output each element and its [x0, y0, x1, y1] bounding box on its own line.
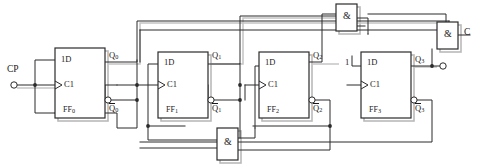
ff1-d-label: 1D	[164, 58, 174, 67]
ff2-clk-label: C1	[268, 80, 278, 89]
wire-and-bottom-in1	[148, 126, 217, 140]
ff3-clk-label: C1	[370, 80, 380, 89]
ff3-name-index: 3	[378, 107, 381, 114]
circuit-diagram: CP 1D C1 FF0 Q0 Q0 1D C1 FF1 Q1 Q1 1D C1…	[0, 0, 479, 165]
q1-index: 1	[218, 53, 221, 60]
qbar0-label: Q0	[109, 103, 118, 114]
ff2-name-text: FF	[267, 105, 276, 114]
qbar1-index: 1	[218, 106, 221, 113]
q3-output-terminal	[440, 63, 446, 69]
ff0-name-index: 0	[72, 107, 75, 114]
gate-bodies	[217, 4, 458, 160]
ff2-name: FF2	[267, 106, 279, 115]
q0-label: Q0	[109, 51, 118, 61]
ff3-name: FF3	[369, 106, 381, 115]
ff3-name-text: FF	[369, 105, 378, 114]
enable-one-label: 1	[345, 58, 349, 67]
ff0-clk-label: C1	[64, 80, 74, 89]
ff1-name: FF1	[166, 106, 178, 115]
qbar3-index: 3	[421, 106, 424, 113]
ff1-name-text: FF	[166, 105, 175, 114]
q3-index: 3	[421, 57, 424, 64]
ff0-name-text: FF	[63, 105, 72, 114]
q1-label: Q1	[212, 51, 221, 61]
ff1-name-index: 1	[175, 107, 178, 114]
ff1-clk-label: C1	[167, 80, 177, 89]
qbar0-index: 0	[115, 106, 118, 113]
cp-input-label: CP	[7, 65, 19, 75]
wire-ff0-bottom-feedback	[35, 85, 55, 113]
q2-index: 2	[319, 53, 322, 60]
ff0-name: FF0	[63, 106, 75, 115]
wire-enable-to-d3	[352, 56, 361, 66]
and-gate-top-symbol: &	[343, 11, 351, 21]
q2-label: Q2	[313, 51, 322, 61]
qbar3-label: Q3	[415, 103, 424, 114]
wire-d1-in	[148, 64, 158, 126]
and-gate-right-symbol: &	[444, 29, 452, 39]
carry-output-label: C	[464, 28, 470, 38]
wire-and-bottom-out-d2	[255, 66, 259, 128]
q3-label: Q3	[415, 55, 424, 65]
qbar2-label: Q2	[313, 103, 322, 114]
cp-input-terminal	[11, 82, 17, 88]
ff3-d-label: 1D	[367, 58, 377, 67]
ff0-d-label: 1D	[61, 55, 71, 64]
qbar1-label: Q1	[212, 103, 221, 114]
wire-cp-branch-ff0-d	[35, 60, 55, 85]
qbar2-index: 2	[319, 106, 322, 113]
and-gate-bottom-symbol: &	[224, 137, 232, 147]
q0-index: 0	[115, 53, 118, 60]
ff2-d-label: 1D	[265, 58, 275, 67]
ff2-name-index: 2	[276, 107, 279, 114]
